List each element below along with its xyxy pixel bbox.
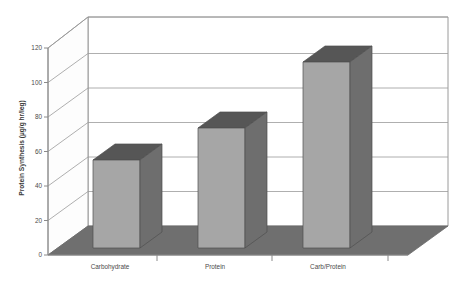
chart-container: 0 20 40 60 80 100 120 Protein Synthesis … [0,0,467,284]
bar-carbohydrate [93,144,162,248]
y-tick-label-0: 0 [38,251,42,258]
y-tick-label-120: 120 [31,44,42,51]
x-category-label-carbohydrate: Carbohydrate [91,263,130,271]
bar-carb-protein [303,46,372,248]
y-tick-label-20: 20 [35,217,43,224]
y-tick-label-80: 80 [35,113,43,120]
bar-protein [198,112,267,248]
plot-left-wall [48,17,88,255]
bar-chart-3d: 0 20 40 60 80 100 120 Protein Synthesis … [0,0,467,284]
x-category-label-protein: Protein [205,263,226,270]
y-axis-ticks [44,48,48,255]
x-axis-separators [157,255,388,261]
x-category-label-carb-protein: Carb/Protein [310,263,346,270]
y-tick-label-40: 40 [35,182,43,189]
y-tick-label-100: 100 [31,79,42,86]
y-tick-label-60: 60 [35,148,43,155]
y-axis-title: Protein Synthesis (µg/g hr/leg) [18,100,26,195]
